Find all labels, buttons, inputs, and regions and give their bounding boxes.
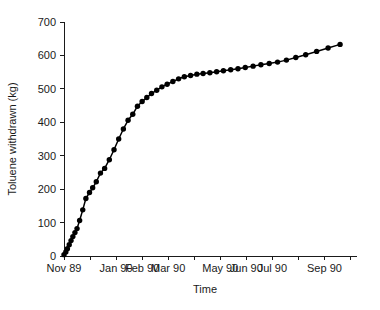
x-tick-labels: Nov 89Jan 90Feb 90Mar 90May 90Jun 90Jul … <box>47 262 342 274</box>
y-tick-label: 500 <box>38 83 56 95</box>
data-point <box>250 63 255 68</box>
y-tick-label: 300 <box>38 150 56 162</box>
data-point <box>275 59 280 64</box>
data-point <box>176 76 181 81</box>
y-axis-ticks <box>60 22 64 256</box>
data-point <box>293 55 298 60</box>
data-point <box>77 218 82 223</box>
data-point <box>170 79 175 84</box>
data-point <box>194 71 199 76</box>
data-point <box>337 42 342 47</box>
data-point <box>83 196 88 201</box>
data-point <box>111 147 116 152</box>
data-point <box>149 91 154 96</box>
line-chart: 0100200300400500600700 Nov 89Jan 90Feb 9… <box>0 0 380 310</box>
data-point <box>121 126 126 131</box>
x-axis-ticks <box>64 256 350 260</box>
data-point <box>314 49 319 54</box>
data-point <box>74 226 79 231</box>
data-point <box>200 71 205 76</box>
data-point <box>125 118 130 123</box>
y-tick-label: 600 <box>38 49 56 61</box>
data-point <box>94 179 99 184</box>
data-point <box>80 207 85 212</box>
y-tick-label: 200 <box>38 183 56 195</box>
data-point <box>214 69 219 74</box>
data-point <box>87 190 92 195</box>
data-series-points <box>61 42 342 258</box>
data-point <box>144 95 149 100</box>
data-point <box>325 45 330 50</box>
data-point <box>235 66 240 71</box>
y-tick-label: 0 <box>50 250 56 262</box>
data-point <box>303 52 308 57</box>
x-tick-label: Sep 90 <box>307 262 342 274</box>
data-point <box>221 68 226 73</box>
data-point <box>139 99 144 104</box>
data-point <box>116 136 121 141</box>
data-point <box>182 74 187 79</box>
x-tick-label: Nov 89 <box>47 262 82 274</box>
data-point <box>102 166 107 171</box>
x-tick-label: Jul 90 <box>258 262 287 274</box>
data-point <box>107 157 112 162</box>
data-point <box>164 81 169 86</box>
data-point <box>154 87 159 92</box>
x-axis-label: Time <box>193 283 217 295</box>
y-tick-label: 400 <box>38 116 56 128</box>
data-point <box>243 65 248 70</box>
data-point <box>258 62 263 67</box>
data-point <box>98 170 103 175</box>
y-tick-label: 700 <box>38 16 56 28</box>
data-point <box>207 70 212 75</box>
data-point <box>228 67 233 72</box>
data-point <box>130 112 135 117</box>
data-point <box>90 185 95 190</box>
data-point <box>159 84 164 89</box>
y-tick-label: 100 <box>38 217 56 229</box>
data-point <box>284 57 289 62</box>
data-point <box>188 73 193 78</box>
data-point <box>135 104 140 109</box>
chart-figure: 0100200300400500600700 Nov 89Jan 90Feb 9… <box>0 0 380 310</box>
x-tick-label: Mar 90 <box>151 262 185 274</box>
data-point <box>267 61 272 66</box>
y-axis-label: Toluene withdrawn (kg) <box>6 82 18 195</box>
y-tick-labels: 0100200300400500600700 <box>38 16 56 262</box>
